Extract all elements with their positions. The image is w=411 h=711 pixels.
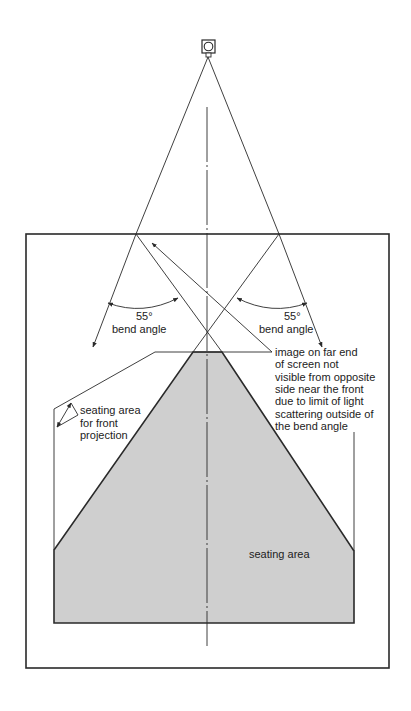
front-projection-label: seating area for front projection [80,404,141,441]
projection-ray-right [208,57,279,234]
svg-text:the bend angle: the bend angle [275,420,348,432]
projector-icon [202,40,215,57]
annotation-text: image on far end of screen not visible f… [275,346,375,432]
bend-angle-right-value: 55° [284,310,301,322]
bend-angle-left-value: 55° [136,310,153,322]
bend-angle-arc-right [237,298,307,308]
projection-ray-left [136,57,208,234]
svg-text:seating area: seating area [80,404,141,416]
svg-text:projection: projection [80,429,128,441]
bend-angle-diagram: 55° bend angle 55° bend angle image on f… [0,0,411,711]
bend-angle-arc-left [108,298,178,308]
svg-text:visible from opposite: visible from opposite [275,371,375,383]
bend-angle-left-label: bend angle [112,323,166,335]
seating-area-label: seating area [249,548,310,560]
svg-text:for front: for front [80,417,118,429]
svg-text:side near the front: side near the front [275,383,364,395]
svg-text:due to limit of light: due to limit of light [275,395,364,407]
front-projection-bracket [57,403,78,427]
svg-text:of screen not: of screen not [275,358,339,370]
svg-text:scattering outside of: scattering outside of [275,408,374,420]
svg-text:image on far end: image on far end [275,346,358,358]
bend-angle-right-label: bend angle [259,323,313,335]
annotation-pointer [152,243,272,352]
